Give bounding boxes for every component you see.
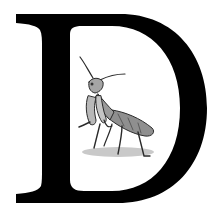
mantis-illustration	[79, 57, 154, 157]
drop-cap-illustration	[0, 0, 223, 220]
letter-d	[16, 14, 207, 203]
drop-cap-svg	[0, 0, 223, 220]
